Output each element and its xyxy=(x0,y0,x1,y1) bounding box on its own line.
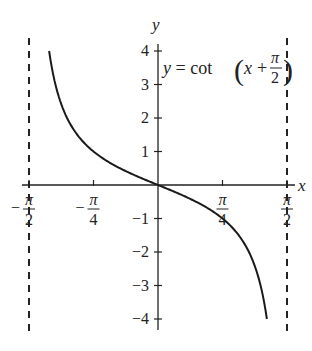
y-tick-label: 2 xyxy=(141,109,149,126)
x-tick-label: −π4 xyxy=(75,191,99,228)
x-ticks: −π2−π4π4π2 xyxy=(11,180,293,228)
cotangent-chart: 4321−1−2−3−4 −π2−π4π4π2 x y y = cot ( x … xyxy=(0,0,312,351)
y-axis-label: y xyxy=(150,15,160,34)
axes xyxy=(22,44,295,330)
x-axis-label: x xyxy=(297,176,306,195)
svg-text:π: π xyxy=(218,191,227,208)
y-tick-label: −1 xyxy=(132,210,149,227)
svg-text:π: π xyxy=(25,191,34,208)
svg-text:−: − xyxy=(75,199,84,216)
equation-text: y = cot xyxy=(161,58,212,78)
x-tick-label: π2 xyxy=(281,191,293,228)
y-tick-label: −3 xyxy=(132,277,149,294)
svg-text:π: π xyxy=(89,191,98,208)
svg-text:4: 4 xyxy=(89,211,97,228)
y-tick-label: −2 xyxy=(132,243,149,260)
equation-frac-den: 2 xyxy=(271,69,279,86)
equation-annotation: y = cot ( x + π 2 ) xyxy=(161,49,293,87)
y-tick-label: 1 xyxy=(141,143,149,160)
equation-frac-num: π xyxy=(271,49,280,66)
svg-text:2: 2 xyxy=(283,211,291,228)
svg-text:−: − xyxy=(11,199,20,216)
y-tick-label: −4 xyxy=(132,310,149,327)
close-paren: ) xyxy=(283,53,293,87)
open-paren: ( xyxy=(234,53,244,87)
svg-text:π: π xyxy=(283,191,292,208)
equation-var: x xyxy=(243,58,252,78)
axis-labels: x y xyxy=(150,15,306,195)
svg-text:2: 2 xyxy=(25,211,33,228)
y-tick-label: 3 xyxy=(141,76,149,93)
equation-plus: + xyxy=(257,58,267,78)
x-tick-label: −π2 xyxy=(11,191,35,228)
y-tick-label: 4 xyxy=(141,42,149,59)
